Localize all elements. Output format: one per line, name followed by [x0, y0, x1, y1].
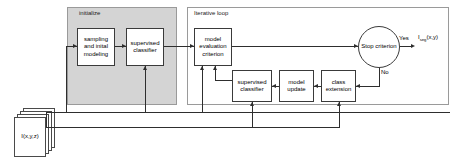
node-sampling-line-1: sampling — [83, 36, 109, 43]
node-sup-classifier-init-line-2: classifier — [129, 47, 160, 54]
arrowhead-to-sup-classifier-loop — [272, 84, 276, 88]
edge-bus-to-sampling-riser — [66, 46, 67, 113]
node-model-eval-line-1: model — [198, 36, 227, 43]
edge-bus-to-sup-classifier-init-riser — [145, 66, 146, 113]
node-sampling-and-initial-modeling: sampling and inital modeling — [77, 28, 115, 66]
node-sup-classifier-init-line-1: supervised — [129, 40, 160, 47]
edge-input-bus-lower — [46, 127, 322, 128]
node-supervised-classifier-init: supervised classifier — [126, 28, 164, 66]
node-model-eval-line-2: evaluation — [198, 43, 227, 50]
node-class-extension-line-2: extension — [325, 86, 353, 93]
node-stop-criterion-line-2: criterion — [375, 43, 396, 49]
node-class-extension: class extension — [321, 70, 356, 102]
output-segmentation-label: Iseg(x,y) — [418, 34, 438, 42]
arrowhead-to-sup-classifier-loop-bottom — [250, 102, 254, 106]
arrowhead-to-stop-criterion — [354, 44, 358, 48]
arrowhead-to-sampling — [73, 44, 77, 48]
no-label: No — [381, 69, 389, 76]
arrowhead-to-output — [411, 44, 415, 48]
arrowhead-to-sup-classifier-init — [122, 44, 126, 48]
node-sampling-line-2: and inital — [83, 43, 109, 50]
yes-label: Yes — [399, 35, 409, 42]
group-initialize-label: initialize — [79, 10, 100, 17]
arrowhead-to-class-extension — [356, 84, 360, 88]
node-model-update-line-2: update — [286, 86, 306, 93]
node-sampling-line-3: modeling — [83, 51, 109, 58]
edge-bus-to-class-extension-horizontal — [322, 127, 340, 128]
arrowhead-to-class-extension-bottom — [337, 102, 341, 106]
node-model-update: model update — [279, 70, 314, 102]
arrowhead-to-model-eval-bottom-left — [200, 66, 204, 70]
node-model-eval-line-3: criterion — [198, 51, 227, 58]
edge-input-bus-upper — [46, 112, 450, 113]
node-supervised-classifier-loop: supervised classifier — [232, 70, 272, 102]
edge-bus-to-model-eval-riser — [202, 66, 203, 112]
arrowhead-to-model-eval-left — [190, 44, 194, 48]
edge-sup-classifier-loop-to-model-eval-horizontal — [215, 80, 232, 81]
node-model-evaluation-criterion: model evaluation criterion — [194, 28, 232, 66]
node-stop-criterion: Stop criterion — [358, 26, 400, 68]
input-volume-label: I(x,y,z) — [16, 133, 44, 139]
flowchart-diagram: initialize Iterative loop I(x,y,z) sampl… — [0, 0, 451, 162]
node-sup-classifier-loop-line-2: classifier — [236, 86, 267, 93]
node-model-update-line-1: model — [286, 79, 306, 86]
group-iterative-loop-label: Iterative loop — [194, 10, 228, 17]
arrowhead-to-model-update — [314, 84, 318, 88]
node-sup-classifier-loop-line-1: supervised — [236, 79, 267, 86]
arrowhead-to-sup-classifier-init-bottom — [143, 66, 147, 70]
edge-model-eval-to-stop-criterion — [232, 46, 358, 47]
output-label-tail: (x,y) — [426, 34, 438, 40]
node-stop-criterion-line-1: Stop — [361, 43, 373, 49]
arrowhead-to-model-eval-bottom-right — [213, 66, 217, 70]
edge-input-bus-link — [46, 112, 47, 128]
edge-stop-criterion-no-riser — [379, 68, 380, 86]
node-class-extension-line-1: class — [325, 79, 353, 86]
